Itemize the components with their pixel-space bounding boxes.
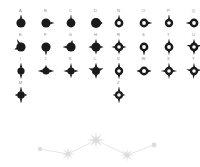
constellation-dot-icon (38, 147, 42, 151)
panel-label-x: X (167, 56, 170, 61)
panel-glyph-blob-round-icon (87, 15, 104, 31)
panel-glyph-blob-spike-up-narrow-icon (62, 15, 79, 31)
panel-label-o: O (142, 8, 145, 13)
panel-glyph-diamond-tall-icon (12, 63, 29, 79)
panel-y: Y (181, 56, 200, 80)
panel-i: I (8, 56, 33, 80)
panel-grid-left: ABCDEFGHIJKLM (8, 8, 108, 104)
panel-glyph-blob-spike-left-icon (62, 39, 79, 55)
panel-j: J (33, 56, 58, 80)
panel-label-s: S (142, 32, 145, 37)
panel-glyph-diamond-wide-icon (37, 63, 54, 79)
panel-label-k: K (69, 56, 72, 61)
panel-f: F (33, 32, 58, 56)
panel-glyph-blob-spike-up-left-icon (12, 39, 29, 55)
panel-glyph-ring-spike-down-icon (135, 39, 152, 55)
panel-v: V (106, 56, 131, 80)
panel-label-i: I (20, 56, 21, 61)
panel-u: U (181, 32, 200, 56)
panel-glyph-blob-spike-down-icon (37, 39, 54, 55)
panel-label-q: Q (192, 8, 195, 13)
panel-glyph-ring-diamond-tall-icon (110, 87, 127, 103)
panel-label-n: N (117, 8, 120, 13)
constellation-dot-icon (152, 143, 157, 148)
panel-glyph-ring-spike-right-icon (135, 15, 152, 31)
panel-glyph-diamond-four-point-icon (62, 63, 79, 79)
panel-label-a: A (19, 8, 22, 13)
panel-d: D (83, 8, 108, 32)
panel-label-d: D (94, 8, 97, 13)
panel-label-c: C (69, 8, 72, 13)
panel-label-j: J (44, 56, 46, 61)
panel-label-m: M (19, 80, 23, 85)
panel-p: P (156, 8, 181, 32)
panel-glyph-ring-wide-icon (135, 63, 152, 79)
constellation-star-icon (120, 148, 134, 162)
constellation-star-icon (61, 147, 75, 161)
panel-label-t: T (167, 32, 170, 37)
panel-label-l: L (94, 56, 97, 61)
constellation-star-icon (87, 131, 105, 149)
panel-o: O (131, 8, 156, 32)
panel-s: S (131, 32, 156, 56)
panel-label-p: P (167, 8, 170, 13)
panel-label-h: H (94, 32, 97, 37)
panel-l: L (83, 56, 108, 80)
constellation-edge (96, 140, 127, 155)
panel-glyph-ring-four-point-sharp-icon (160, 63, 177, 79)
panel-m: M (8, 80, 33, 104)
panel-r: R (106, 32, 131, 56)
panel-glyph-ring-diamond-icon (110, 63, 127, 79)
panel-glyph-ring-spike-up-icon (110, 15, 127, 31)
panel-w: W (131, 56, 156, 80)
panel-label-y: Y (192, 56, 195, 61)
panel-glyph-ring-four-point-icon (110, 39, 127, 55)
panel-label-r: R (117, 32, 120, 37)
panel-label-g: G (69, 32, 72, 37)
constellation-edge (127, 145, 154, 155)
panel-n: N (106, 8, 131, 32)
panel-x: X (156, 56, 181, 80)
panel-glyph-ring-spike-up-tall-icon (160, 15, 177, 31)
panel-h: H (83, 32, 108, 56)
constellation-edge (68, 140, 96, 154)
panel-glyph-ring-star-icon (185, 39, 200, 55)
panel-q: Q (181, 8, 200, 32)
panel-grid-right: NOPQRSTUVWXYZ (106, 8, 200, 104)
panel-glyph-ring-cross-star-icon (185, 63, 200, 79)
panel-glyph-diamond-tall-star-icon (12, 87, 29, 103)
panel-glyph-blob-spike-right-icon (37, 15, 54, 31)
panel-label-v: V (117, 56, 120, 61)
panel-c: C (58, 8, 83, 32)
panel-glyph-blob-spike-up-icon (12, 15, 29, 31)
panel-glyph-ring-spike-left-icon (185, 15, 200, 31)
panel-label-w: W (141, 56, 145, 61)
panel-t: T (156, 32, 181, 56)
panel-label-e: E (19, 32, 22, 37)
figure-canvas: ABCDEFGHIJKLM NOPQRSTUVWXYZ (0, 0, 200, 167)
panel-z: Z (106, 80, 131, 104)
panel-label-f: F (44, 32, 47, 37)
panel-label-b: B (44, 8, 47, 13)
constellation-diagram (34, 122, 164, 167)
panel-glyph-ring-spike-up-down-icon (160, 39, 177, 55)
panel-g: G (58, 32, 83, 56)
panel-e: E (8, 32, 33, 56)
panel-label-u: U (192, 32, 195, 37)
panel-a: A (8, 8, 33, 32)
panel-glyph-diamond-star-icon (87, 63, 104, 79)
panel-glyph-blob-four-point-icon (87, 39, 104, 55)
panel-label-z: Z (117, 80, 120, 85)
panel-b: B (33, 8, 58, 32)
panel-k: K (58, 56, 83, 80)
